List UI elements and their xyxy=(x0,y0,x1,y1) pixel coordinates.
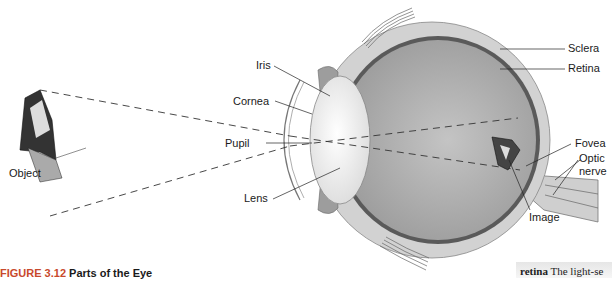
label-cornea: Cornea xyxy=(233,96,269,107)
label-sclera: Sclera xyxy=(568,43,599,54)
figure-caption: FIGURE 3.12 Parts of the Eye xyxy=(0,267,152,279)
glossary-term: retina xyxy=(520,265,548,277)
label-pupil: Pupil xyxy=(225,138,249,149)
label-object: Object xyxy=(9,168,41,179)
figure-title: Parts of the Eye xyxy=(69,267,152,279)
label-optic-nerve-1: Optic xyxy=(579,153,605,164)
figure-number: FIGURE 3.12 xyxy=(0,267,66,279)
glossary-definition: The light-se xyxy=(550,265,603,277)
label-lens: Lens xyxy=(244,193,268,204)
label-fovea: Fovea xyxy=(575,138,606,149)
glossary-entry: retina The light-se xyxy=(520,265,603,277)
label-retina: Retina xyxy=(568,63,600,74)
label-optic-nerve-2: nerve xyxy=(579,166,607,177)
label-iris: Iris xyxy=(256,60,271,71)
cornea xyxy=(284,80,300,200)
label-image: Image xyxy=(529,212,560,223)
